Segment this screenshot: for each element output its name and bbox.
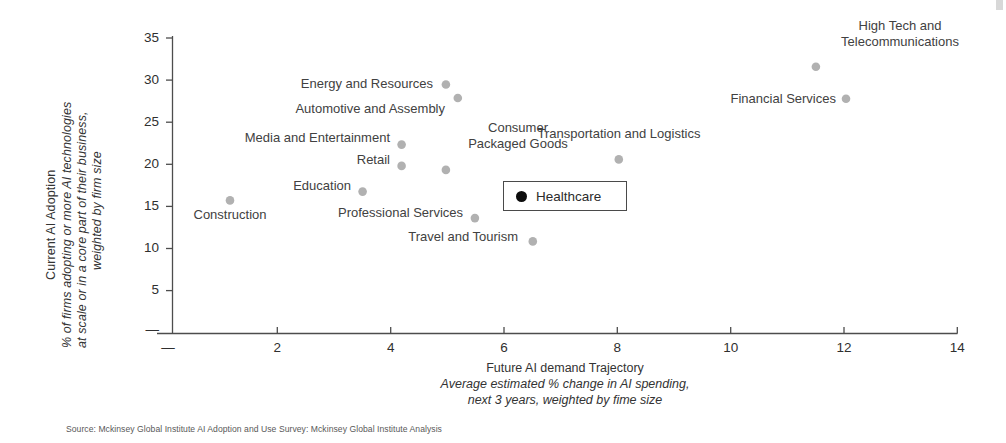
- data-point-professional-services[interactable]: [471, 214, 480, 223]
- y-tick-label-20: 20: [133, 157, 159, 171]
- data-point-media-and-entertainment[interactable]: [397, 140, 406, 149]
- point-label-media-and-entertainment: Media and Entertainment: [150, 130, 390, 146]
- x-axis-title-sub-line1: Average estimated % change in AI spendin…: [172, 376, 958, 392]
- y-tick-label-15: 15: [133, 199, 159, 213]
- x-tick-label-4: 4: [378, 341, 404, 355]
- x-axis-title: Future AI demand Trajectory Average esti…: [172, 360, 958, 408]
- legend-healthcare[interactable]: Healthcare: [503, 181, 627, 211]
- legend-dot-icon: [516, 191, 527, 202]
- x-axis-title-sub-line2: next 3 years, weighted by fime size: [172, 392, 958, 408]
- point-label-financial-services: Financial Services: [620, 91, 836, 107]
- legend-label: Healthcare: [536, 189, 601, 204]
- point-label-education: Education: [240, 178, 351, 194]
- source-note: Source: Mckinsey Global Institute AI Ado…: [66, 424, 442, 434]
- data-point-retail[interactable]: [397, 162, 406, 171]
- x-tick-label-8: 8: [604, 341, 630, 355]
- x-axis-title-main: Future AI demand Trajectory: [172, 360, 958, 376]
- data-point-automotive-and-assembly[interactable]: [454, 94, 463, 103]
- data-point-construction[interactable]: [226, 196, 235, 205]
- data-point-transportation-and-logistics[interactable]: [615, 155, 624, 164]
- point-label-automotive-and-assembly: Automotive and Assembly: [195, 101, 445, 117]
- data-point-financial-services[interactable]: [842, 95, 851, 104]
- y-axis-ticks: [166, 38, 173, 291]
- data-point-energy-and-resources[interactable]: [442, 80, 451, 89]
- data-point-consumer-packaged-goods[interactable]: [442, 166, 451, 175]
- point-label-line-2: Telecommunications: [841, 34, 959, 49]
- x-tick-label-12: 12: [831, 341, 857, 355]
- point-label-professional-services: Professional Services: [300, 205, 463, 221]
- y-tick-label-25: 25: [133, 115, 159, 129]
- x-tick-label-2: 2: [264, 341, 290, 355]
- point-label-transportation-and-logistics: Transportation and Logistics: [525, 126, 713, 142]
- data-point-high-tech-and-telecommunications[interactable]: [812, 63, 821, 72]
- x-axis-ticks: [277, 327, 957, 334]
- x-tick-label-6: 6: [491, 341, 517, 355]
- data-point-travel-and-tourism[interactable]: [529, 237, 538, 246]
- point-label-travel-and-tourism: Travel and Tourism: [355, 229, 518, 245]
- scatter-chart-figure: Current AI Adoption % of firms adopting …: [0, 0, 1006, 443]
- x-tick-label-0: —: [155, 341, 181, 355]
- point-label-line-1: High Tech and: [859, 18, 942, 33]
- point-label-construction: Construction: [175, 207, 285, 223]
- point-label-high-tech-and-telecommunications: High Tech and Telecommunications: [795, 18, 1005, 49]
- y-tick-label-30: 30: [133, 73, 159, 87]
- x-tick-label-14: 14: [944, 341, 970, 355]
- point-label-retail: Retail: [280, 152, 390, 168]
- x-tick-label-10: 10: [718, 341, 744, 355]
- y-tick-label-10: 10: [133, 241, 159, 255]
- point-label-energy-and-resources: Energy and Resources: [185, 76, 433, 92]
- data-point-education[interactable]: [358, 187, 367, 196]
- y-tick-label-35: 35: [133, 31, 159, 45]
- y-tick-label-5: 5: [133, 283, 159, 297]
- y-tick-label-0: —: [133, 323, 159, 337]
